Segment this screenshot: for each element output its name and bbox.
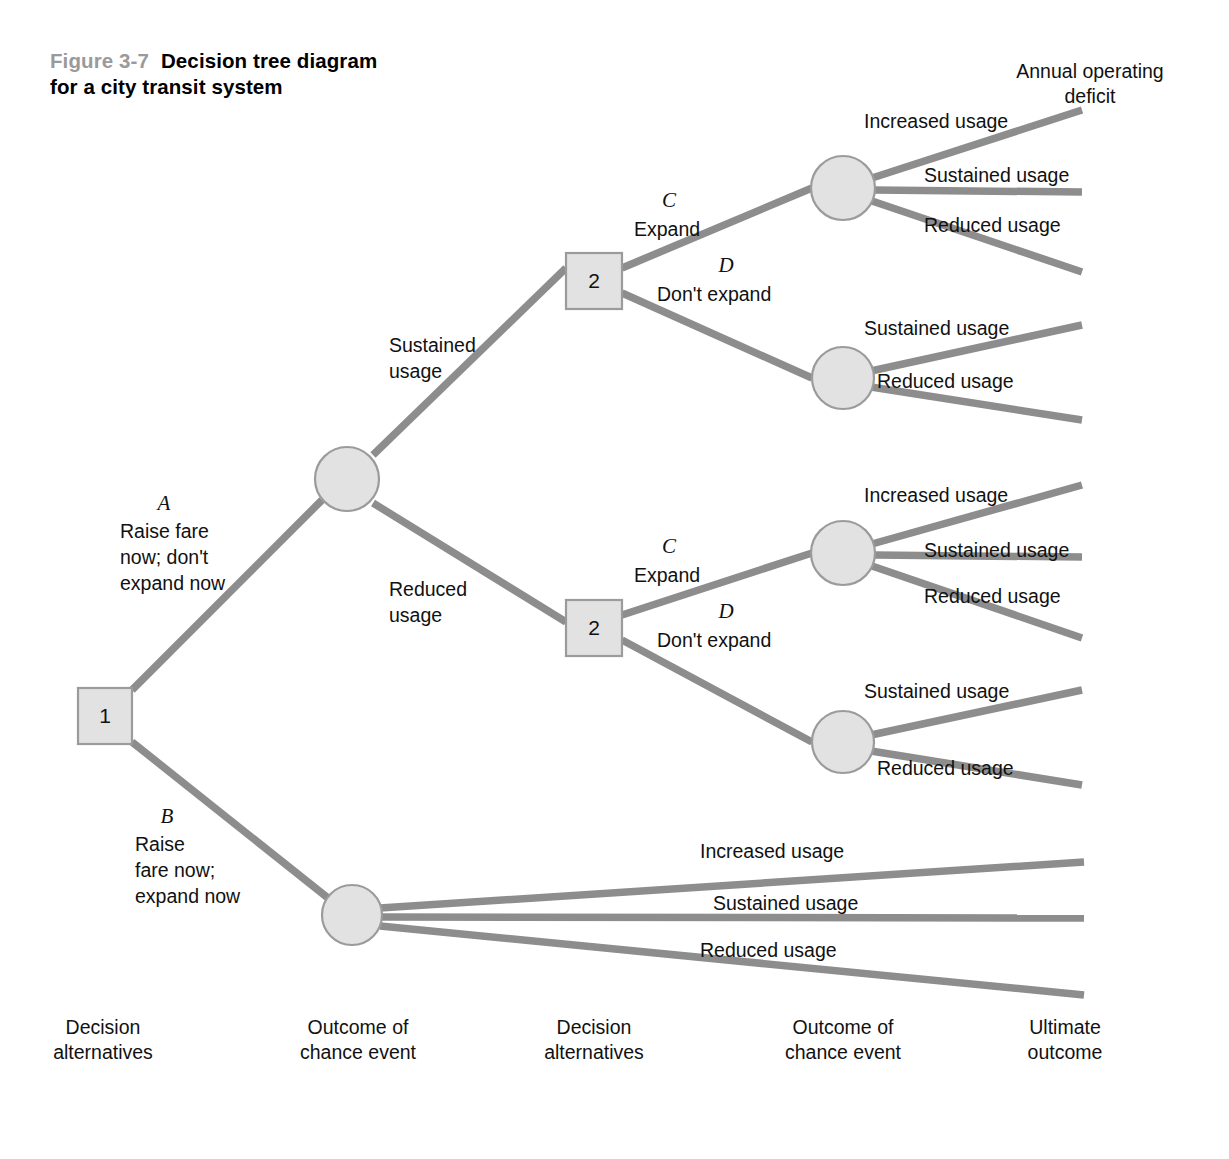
edge-n1-sustained-usage bbox=[874, 190, 1082, 192]
n4-reduced-usage-label: Reduced usage bbox=[877, 757, 1014, 779]
n5-reduced-usage-label: Reduced usage bbox=[700, 939, 837, 961]
first-node-reduced-usage-line2: usage bbox=[389, 604, 442, 626]
first-node-sustained-usage-line1: Sustained bbox=[389, 334, 476, 356]
alternative-a-line1: Raise fare bbox=[120, 520, 209, 542]
alternative-a-letter: A bbox=[156, 491, 171, 515]
alternative-a-line3: expand now bbox=[120, 572, 226, 594]
n4-sustained-usage-label: Sustained usage bbox=[864, 680, 1009, 702]
n3-increased-usage-label: Increased usage bbox=[864, 484, 1008, 506]
ultimate-outcome-header-line1: Annual operating bbox=[1016, 60, 1163, 82]
column-label-4-line1: Ultimate bbox=[1029, 1016, 1101, 1038]
alternative-b-line1: Raise bbox=[135, 833, 185, 855]
alternative-d-upper-letter: D bbox=[717, 253, 733, 277]
n2-sustained-usage-label: Sustained usage bbox=[864, 317, 1009, 339]
alternative-b-line2: fare now; bbox=[135, 859, 215, 881]
decision-node-1-label: 1 bbox=[99, 704, 111, 727]
edge-d-dont-expand-lower bbox=[622, 640, 812, 742]
chance-node-bottom[interactable] bbox=[322, 885, 382, 945]
chance-node-first[interactable] bbox=[315, 447, 379, 511]
column-label-3-line2: chance event bbox=[785, 1041, 902, 1063]
alternative-d-upper-label: Don't expand bbox=[657, 283, 771, 305]
chance-node-upper-dont-expand[interactable] bbox=[812, 347, 874, 409]
alternative-d-lower-letter: D bbox=[717, 599, 733, 623]
first-node-reduced-usage-line1: Reduced bbox=[389, 578, 467, 600]
column-label-1-line1: Outcome of bbox=[308, 1016, 409, 1038]
n1-sustained-usage-label: Sustained usage bbox=[924, 164, 1069, 186]
decision-node-2-upper-label: 2 bbox=[588, 269, 600, 292]
alternative-d-lower-label: Don't expand bbox=[657, 629, 771, 651]
decision-node-2-lower-label: 2 bbox=[588, 616, 600, 639]
n5-increased-usage-label: Increased usage bbox=[700, 840, 844, 862]
n1-increased-usage-label: Increased usage bbox=[864, 110, 1008, 132]
figure-decision-tree: Figure 3-7Decision tree diagram for a ci… bbox=[0, 0, 1229, 1159]
column-label-1-line2: chance event bbox=[300, 1041, 417, 1063]
alternative-c-upper-label: Expand bbox=[634, 218, 700, 240]
chance-node-upper-expand[interactable] bbox=[811, 156, 875, 220]
column-label-0-line2: alternatives bbox=[53, 1041, 153, 1063]
n1-reduced-usage-label: Reduced usage bbox=[924, 214, 1061, 236]
n5-sustained-usage-label: Sustained usage bbox=[713, 892, 858, 914]
column-label-3-line1: Outcome of bbox=[793, 1016, 894, 1038]
column-label-0-line1: Decision bbox=[66, 1016, 141, 1038]
alternative-c-upper-letter: C bbox=[662, 188, 677, 212]
chance-node-lower-expand[interactable] bbox=[811, 521, 875, 585]
alternative-c-lower-label: Expand bbox=[634, 564, 700, 586]
alternative-b-letter: B bbox=[161, 804, 174, 828]
edge-n5-sustained-usage bbox=[382, 917, 1084, 918]
column-label-4-line2: outcome bbox=[1028, 1041, 1103, 1063]
edge-d-dont-expand-upper bbox=[622, 293, 812, 378]
chance-node-lower-dont-expand[interactable] bbox=[812, 711, 874, 773]
alternative-c-lower-letter: C bbox=[662, 534, 677, 558]
n3-reduced-usage-label: Reduced usage bbox=[924, 585, 1061, 607]
n2-reduced-usage-label: Reduced usage bbox=[877, 370, 1014, 392]
decision-tree-svg: 1 2 2 Annual operating deficit A Raise f… bbox=[0, 0, 1229, 1159]
alternative-b-line3: expand now bbox=[135, 885, 241, 907]
ultimate-outcome-header-line2: deficit bbox=[1065, 85, 1117, 107]
first-node-sustained-usage-line2: usage bbox=[389, 360, 442, 382]
n3-sustained-usage-label: Sustained usage bbox=[924, 539, 1069, 561]
edge-n1-reduced-usage bbox=[872, 201, 1082, 272]
column-label-2-line1: Decision bbox=[557, 1016, 632, 1038]
column-label-2-line2: alternatives bbox=[544, 1041, 644, 1063]
alternative-a-line2: now; don't bbox=[120, 546, 209, 568]
